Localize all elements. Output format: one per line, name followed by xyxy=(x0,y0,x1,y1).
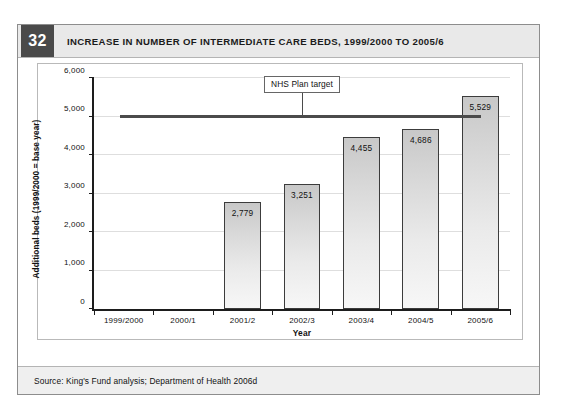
y-tick-mark xyxy=(89,270,94,271)
y-tick-mark xyxy=(89,231,94,232)
y-tick-mark xyxy=(89,154,94,155)
x-tick-label: 1999/2000 xyxy=(104,316,144,325)
source-bar: Source: King's Fund analysis; Department… xyxy=(18,366,539,394)
y-tick-label: 1,000 xyxy=(64,258,85,267)
y-tick-label: 0 xyxy=(80,296,85,305)
x-tick-label: 2003/4 xyxy=(349,316,375,325)
chart-plot-panel: Additional beds (1999/2000 = base year) … xyxy=(37,63,523,340)
x-tick-mark xyxy=(272,309,273,315)
figure-title: INCREASE IN NUMBER OF INTERMEDIATE CARE … xyxy=(67,36,444,47)
figure-card: 32 INCREASE IN NUMBER OF INTERMEDIATE CA… xyxy=(17,24,540,395)
y-tick-mark xyxy=(89,193,94,194)
x-axis-title: Year xyxy=(94,328,510,338)
x-tick-label: 2002/3 xyxy=(289,316,315,325)
y-tick-mark xyxy=(89,77,94,78)
bar: 3,251 xyxy=(284,184,321,309)
x-tick-mark xyxy=(213,309,214,315)
chart-plot-area: 01,0002,0003,0004,0005,0006,000 1999/200… xyxy=(92,78,510,311)
bar-value-label: 2,779 xyxy=(225,208,260,218)
x-tick-label: 2004/5 xyxy=(408,316,434,325)
bar: 4,686 xyxy=(402,129,439,309)
gridline xyxy=(94,154,510,155)
source-text: Source: King's Fund analysis; Department… xyxy=(34,376,257,386)
nhs-plan-target-label: NHS Plan target xyxy=(264,76,340,93)
x-tick-label: 2005/6 xyxy=(467,316,493,325)
x-tick-mark xyxy=(153,309,154,315)
y-tick-label: 6,000 xyxy=(64,65,85,74)
bar: 4,455 xyxy=(343,137,380,309)
y-tick-label: 2,000 xyxy=(64,219,85,228)
y-tick-label: 5,000 xyxy=(64,104,85,113)
nhs-plan-target-line xyxy=(120,115,481,118)
figure-header: 32 INCREASE IN NUMBER OF INTERMEDIATE CA… xyxy=(18,25,539,58)
bar: 5,529 xyxy=(462,96,499,309)
bar-value-label: 3,251 xyxy=(285,190,320,200)
figure-number-badge: 32 xyxy=(21,25,54,57)
bar: 2,779 xyxy=(224,202,261,309)
x-tick-label: 2000/1 xyxy=(170,316,196,325)
x-tick-mark xyxy=(94,309,95,315)
y-axis-title: Additional beds (1999/2000 = base year) xyxy=(32,81,46,317)
x-tick-mark xyxy=(332,309,333,315)
x-tick-mark xyxy=(510,309,511,315)
bar-value-label: 4,455 xyxy=(344,143,379,153)
bar-value-label: 5,529 xyxy=(463,102,498,112)
y-tick-mark xyxy=(89,116,94,117)
bar-value-label: 4,686 xyxy=(403,135,438,145)
x-tick-mark xyxy=(451,309,452,315)
y-tick-label: 4,000 xyxy=(64,142,85,151)
x-tick-label: 2001/2 xyxy=(230,316,256,325)
nhs-plan-target-leader-line xyxy=(302,91,303,117)
y-tick-label: 3,000 xyxy=(64,181,85,190)
x-tick-mark xyxy=(391,309,392,315)
